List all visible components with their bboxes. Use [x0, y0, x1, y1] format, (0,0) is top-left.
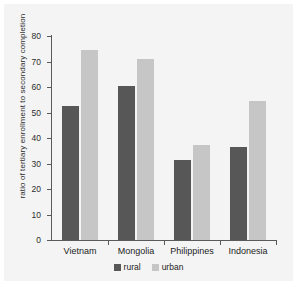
chart-figure: ratio of tertiary enrollment to secondar…: [4, 4, 293, 281]
y-tick-mark: [47, 113, 51, 114]
bar-philippines-rural: [174, 160, 191, 240]
y-tick-label: 70: [32, 58, 41, 67]
y-tick-label: 0: [36, 236, 41, 245]
bar-mongolia-urban: [137, 59, 154, 240]
y-tick-mark: [47, 87, 51, 88]
y-tick-label: 50: [32, 109, 41, 118]
x-tick-label-indonesia: Indonesia: [220, 246, 276, 256]
y-tick-label: 30: [32, 160, 41, 169]
y-tick-label: 10: [32, 211, 41, 220]
bar-philippines-urban: [193, 145, 210, 240]
bar-vietnam-urban: [81, 50, 98, 240]
plot-area: [52, 36, 276, 240]
x-tick-label-vietnam: Vietnam: [52, 246, 108, 256]
y-tick-mark: [47, 164, 51, 165]
y-tick-mark: [47, 215, 51, 216]
legend-entry-rural: rural: [114, 263, 141, 272]
bar-indonesia-rural: [230, 147, 247, 240]
y-tick-mark: [47, 36, 51, 37]
y-tick-label: 60: [32, 83, 41, 92]
y-axis-title: ratio of tertiary enrollment to secondar…: [18, 19, 27, 199]
y-tick-mark: [47, 189, 51, 190]
chart-legend: ruralurban: [4, 263, 293, 272]
y-tick-mark: [47, 138, 51, 139]
y-tick-label: 80: [32, 32, 41, 41]
y-tick-mark: [47, 62, 51, 63]
x-tick-mark: [108, 241, 109, 245]
y-tick-label: 40: [32, 134, 41, 143]
y-tick-label: 20: [32, 185, 41, 194]
legend-swatch-urban: [152, 264, 159, 271]
x-tick-label-mongolia: Mongolia: [108, 246, 164, 256]
x-tick-mark: [276, 241, 277, 245]
legend-swatch-rural: [114, 264, 121, 271]
legend-label-rural: rural: [124, 263, 141, 272]
bar-vietnam-rural: [62, 106, 79, 240]
bar-mongolia-rural: [118, 86, 135, 240]
legend-entry-urban: urban: [152, 263, 184, 272]
x-tick-label-philippines: Philippines: [164, 246, 220, 256]
x-tick-mark: [164, 241, 165, 245]
y-tick-mark: [47, 240, 51, 241]
bar-indonesia-urban: [249, 101, 266, 240]
legend-label-urban: urban: [162, 263, 184, 272]
x-tick-mark: [220, 241, 221, 245]
